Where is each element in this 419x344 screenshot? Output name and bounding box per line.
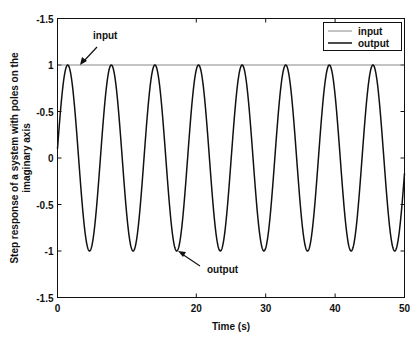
y-tick-label: -0.5 — [36, 200, 54, 211]
legend-input-label: input — [358, 26, 383, 37]
plot-area — [58, 65, 405, 251]
x-tick-label: 20 — [191, 303, 203, 314]
output-annotation-label: output — [207, 264, 239, 275]
y-axis-label-line2: imaginary axis — [21, 123, 32, 193]
y-axis-label: Step response of a system with poles on … — [9, 52, 32, 264]
y-axis-label-line1: Step response of a system with poles on … — [9, 52, 20, 264]
y-tick-label: 1 — [48, 60, 54, 71]
x-tick-label: 30 — [260, 303, 272, 314]
x-axis-label: Time (s) — [212, 321, 250, 332]
x-tick-label: 0 — [55, 303, 61, 314]
output-annotation: output — [178, 251, 239, 275]
y-tick-label: -0.5 — [36, 107, 54, 118]
input-annotation-label: input — [93, 30, 118, 41]
legend: input output — [324, 23, 402, 51]
legend-output-label: output — [358, 38, 390, 49]
x-tick-label: 50 — [399, 303, 411, 314]
step-response-chart: Step response of a system with poles on … — [0, 0, 419, 344]
x-tick-label: 40 — [330, 303, 342, 314]
input-annotation: input — [80, 30, 118, 65]
y-tick-label: -1 — [45, 246, 54, 257]
y-tick-label: -1.5 — [36, 293, 54, 304]
y-tick-label: 0 — [48, 153, 54, 164]
output-series-line — [58, 65, 405, 251]
y-tick-label: -1.5 — [36, 14, 54, 25]
arrow-icon — [182, 254, 200, 266]
y-axis-ticks: -1.51-0.50-0.5-1-1.5 — [36, 14, 404, 304]
